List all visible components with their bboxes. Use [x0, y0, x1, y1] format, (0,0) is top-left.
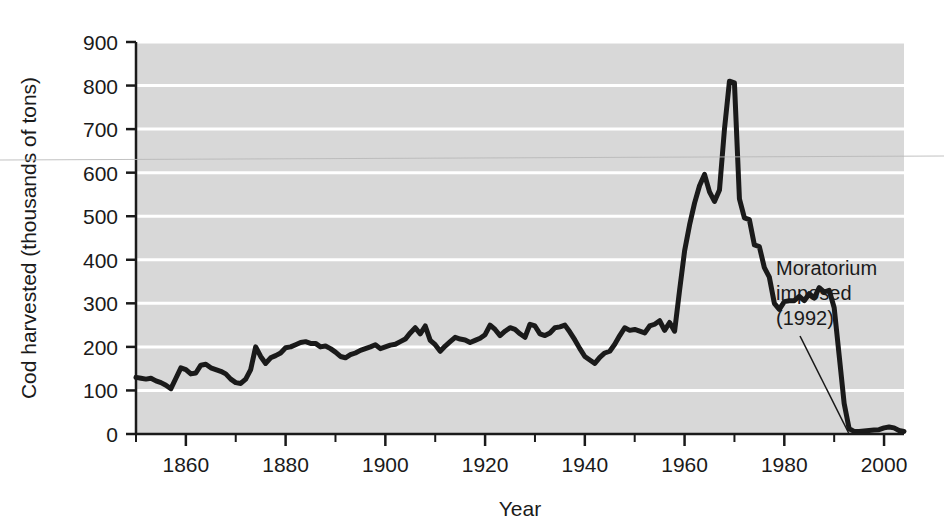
x-tick-label-1920: 1920	[462, 453, 509, 476]
y-axis-title: Cod harvested (thousands of tons)	[17, 77, 40, 399]
y-tick-label-0: 0	[106, 423, 118, 446]
x-tick-label-1940: 1940	[561, 453, 608, 476]
y-tick-label-300: 300	[83, 292, 118, 315]
y-tick-label-800: 800	[83, 75, 118, 98]
y-tick-label-500: 500	[83, 205, 118, 228]
x-tick-label-1860: 1860	[163, 453, 210, 476]
y-axis-ticks	[126, 42, 136, 434]
x-axis-title: Year	[499, 497, 541, 520]
y-tick-label-600: 600	[83, 162, 118, 185]
x-tick-label-1880: 1880	[262, 453, 309, 476]
y-tick-label-200: 200	[83, 336, 118, 359]
y-axis-tick-labels: 0100200300400500600700800900	[83, 31, 118, 446]
x-tick-label-1960: 1960	[661, 453, 708, 476]
y-tick-label-100: 100	[83, 379, 118, 402]
y-tick-label-900: 900	[83, 31, 118, 54]
y-tick-label-400: 400	[83, 249, 118, 272]
x-tick-label-1900: 1900	[362, 453, 409, 476]
moratorium-annotation-line-1: Moratorium	[776, 257, 877, 279]
cod-harvest-chart-figure: 0100200300400500600700800900 18601880190…	[0, 0, 944, 531]
moratorium-annotation-line-3: (1992)	[776, 307, 834, 329]
plot-background	[136, 42, 904, 434]
x-tick-label-1980: 1980	[761, 453, 808, 476]
y-tick-label-700: 700	[83, 118, 118, 141]
chart-canvas: 0100200300400500600700800900 18601880190…	[0, 0, 944, 531]
moratorium-annotation-line-2: imposed	[776, 282, 852, 304]
x-axis-tick-labels: 18601880190019201940196019802000	[163, 453, 908, 476]
x-axis-ticks	[136, 434, 884, 446]
x-tick-label-2000: 2000	[861, 453, 908, 476]
